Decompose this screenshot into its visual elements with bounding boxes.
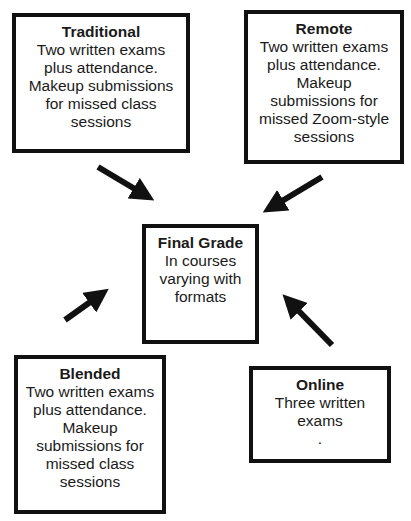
node-final-grade: Final Grade In courses varying with form… <box>142 224 259 344</box>
node-body: Two written exams plus attendance. Makeu… <box>248 38 400 146</box>
node-title: Online <box>253 376 387 394</box>
node-body: Three written exams . <box>253 394 387 448</box>
node-title: Final Grade <box>146 234 255 252</box>
node-body: Two written exams plus attendance. Makeu… <box>16 41 186 131</box>
node-title: Traditional <box>16 23 186 41</box>
arrow-traditional-to-final <box>98 167 145 195</box>
arrow-blended-to-final <box>65 295 100 320</box>
node-blended: Blended Two written exams plus attendanc… <box>14 355 166 514</box>
arrow-online-to-final <box>290 302 332 345</box>
arrow-remote-to-final <box>272 177 322 207</box>
node-title: Blended <box>18 365 162 383</box>
node-title: Remote <box>248 20 400 38</box>
node-online: Online Three written exams . <box>249 366 391 463</box>
node-body: In courses varying with formats <box>146 252 255 306</box>
node-remote: Remote Two written exams plus attendance… <box>244 10 404 164</box>
node-traditional: Traditional Two written exams plus atten… <box>12 13 190 153</box>
node-body: Two written exams plus attendance. Makeu… <box>18 383 162 491</box>
